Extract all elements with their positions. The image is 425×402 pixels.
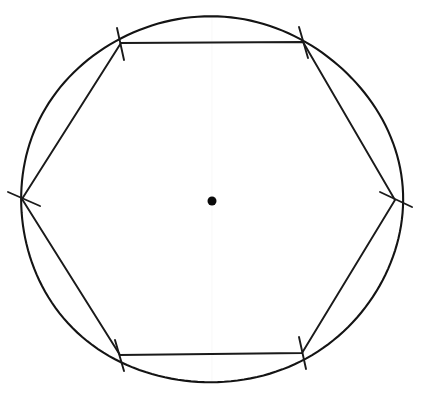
center-point-dot bbox=[208, 197, 217, 206]
geometry-figure bbox=[0, 0, 425, 402]
geometry-canvas bbox=[0, 0, 425, 402]
